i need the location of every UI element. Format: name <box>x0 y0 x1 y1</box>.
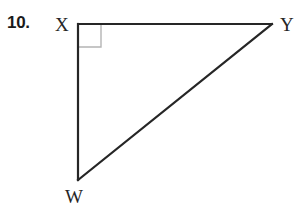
right-angle-marker-icon <box>78 24 101 47</box>
vertex-label-y: Y <box>280 15 294 35</box>
vertex-label-x: X <box>55 15 69 35</box>
figure-container: 10. X Y W <box>0 0 303 221</box>
segment-wy <box>78 24 272 180</box>
triangle-diagram <box>0 0 303 221</box>
vertex-label-w: W <box>65 187 83 207</box>
